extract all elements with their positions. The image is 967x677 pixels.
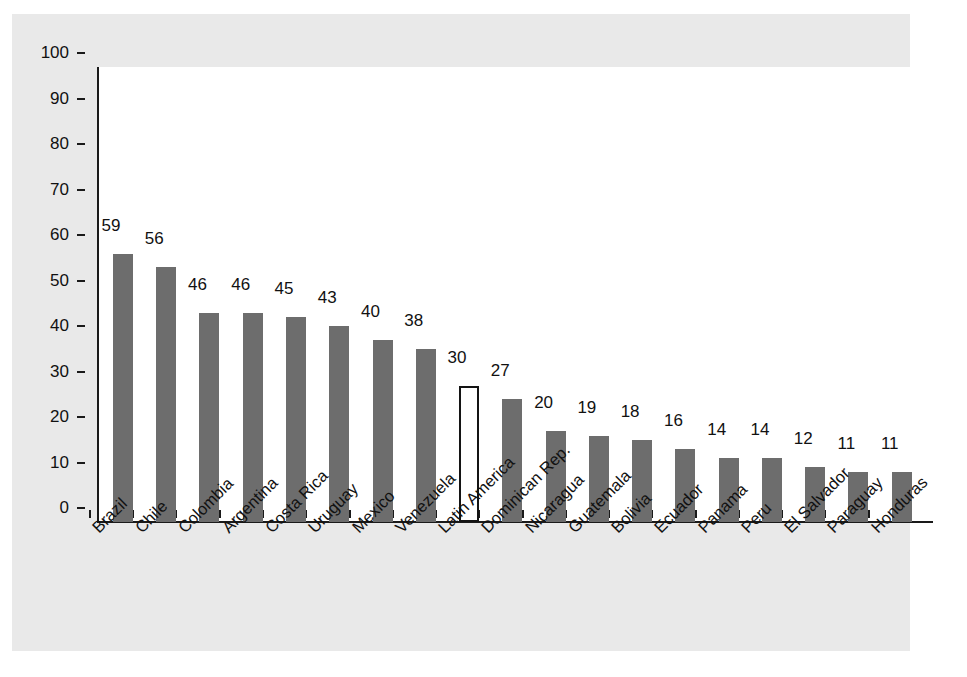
figure-panel: 0102030405060708090100 59564646454340383… bbox=[12, 14, 910, 651]
y-axis-tick bbox=[77, 143, 85, 145]
y-axis-tick-label: 90 bbox=[21, 90, 69, 107]
bar bbox=[113, 254, 133, 522]
y-axis-tick-label: 80 bbox=[21, 135, 69, 152]
y-axis-tick-label: 10 bbox=[21, 454, 69, 471]
y-axis-tick bbox=[77, 189, 85, 191]
x-axis-tick bbox=[89, 510, 91, 518]
y-axis-tick-label: 60 bbox=[21, 226, 69, 243]
y-axis-tick-label: 50 bbox=[21, 272, 69, 289]
bars-layer bbox=[97, 67, 933, 522]
y-axis-tick-label: 20 bbox=[21, 408, 69, 425]
bar-value-label: 11 bbox=[860, 435, 920, 452]
y-axis-tick-label: 40 bbox=[21, 317, 69, 334]
y-axis-tick bbox=[77, 462, 85, 464]
y-axis-tick bbox=[77, 371, 85, 373]
chart-screenshot: 0102030405060708090100 59564646454340383… bbox=[0, 0, 967, 677]
bar-value-label: 27 bbox=[470, 362, 530, 379]
y-axis-tick-label: 100 bbox=[21, 44, 69, 61]
y-axis-tick-label: 70 bbox=[21, 181, 69, 198]
y-axis-tick bbox=[77, 234, 85, 236]
y-axis-tick-label: 0 bbox=[21, 499, 69, 516]
y-axis-tick bbox=[77, 507, 85, 509]
bar bbox=[156, 267, 176, 522]
bar-value-label: 56 bbox=[124, 230, 184, 247]
y-axis-tick bbox=[77, 416, 85, 418]
bar-value-label: 38 bbox=[384, 312, 444, 329]
y-axis-tick bbox=[77, 280, 85, 282]
y-axis-tick bbox=[77, 52, 85, 54]
y-axis-tick-label: 30 bbox=[21, 363, 69, 380]
y-axis-tick bbox=[77, 325, 85, 327]
y-axis-tick bbox=[77, 98, 85, 100]
